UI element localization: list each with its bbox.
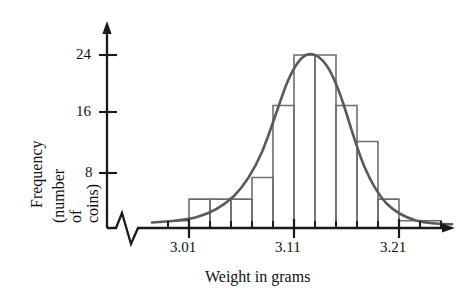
histogram-bar <box>210 199 231 228</box>
histogram-plot <box>0 0 463 307</box>
y-tick-label-24: 24 <box>76 47 91 62</box>
histogram-bar <box>378 199 399 228</box>
histogram-bar <box>231 199 252 228</box>
x-tick-label-321: 3.21 <box>380 240 406 255</box>
x-tick-label-311: 3.11 <box>275 240 301 255</box>
histogram-bar <box>294 55 315 228</box>
histogram-bars <box>168 55 441 228</box>
x-axis-break-zigzag <box>107 213 146 244</box>
y-axis-arrowhead <box>102 21 111 34</box>
x-tick-label-301: 3.01 <box>170 240 196 255</box>
histogram-bar <box>315 55 336 228</box>
y-axis-title-line2: (number of coins) <box>50 169 101 223</box>
histogram-bar <box>252 178 273 228</box>
x-axis-title: Weight in grams <box>205 268 310 285</box>
y-tick-label-8: 8 <box>85 165 93 180</box>
y-tick-label-16: 16 <box>76 104 91 119</box>
y-axis-title: Frequency (number of coins) <box>12 24 68 224</box>
histogram-figure: Frequency (number of coins) 24 16 8 3.01… <box>0 0 463 307</box>
y-axis-title-line1: Frequency <box>28 140 45 208</box>
histogram-bar <box>273 105 294 228</box>
histogram-bar <box>336 105 357 228</box>
